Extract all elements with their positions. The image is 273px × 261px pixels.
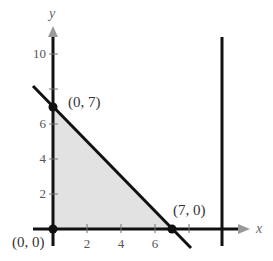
point-0-7	[49, 103, 58, 112]
chart-canvas: 10 6 4 2 2 4 6 y x (0, 7) (7, 0) (0, 0)	[0, 0, 273, 261]
point-label-0-0: (0, 0)	[12, 234, 45, 251]
tick-label-y-2: 2	[40, 186, 47, 201]
y-axis-arrow-icon	[48, 26, 58, 37]
x-axis-label: x	[255, 221, 263, 236]
y-axis-label: y	[47, 6, 56, 21]
tick-label-x-2: 2	[84, 236, 91, 251]
tick-label-x-6: 6	[152, 236, 159, 251]
tick-label-x-4: 4	[118, 236, 125, 251]
tick-label-y-10: 10	[33, 46, 46, 61]
point-7-0	[168, 225, 177, 234]
point-label-7-0: (7, 0)	[173, 202, 206, 219]
tick-label-y-4: 4	[40, 151, 47, 166]
tick-label-y-6: 6	[40, 116, 47, 131]
x-axis-arrow-icon	[238, 224, 250, 234]
point-label-0-7: (0, 7)	[68, 94, 101, 111]
point-0-0	[49, 225, 58, 234]
